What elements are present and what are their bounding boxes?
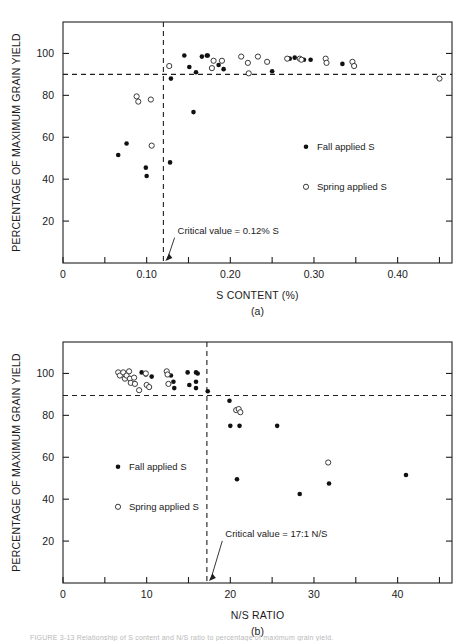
data-point-fall (308, 57, 313, 62)
legend-label-spring: Spring applied S (317, 181, 387, 192)
x-axis-tick-label: 20 (224, 588, 236, 600)
data-point-fall (169, 76, 174, 81)
data-point-spring (255, 54, 260, 59)
data-point-spring (167, 63, 172, 68)
data-point-fall (187, 383, 192, 388)
y-axis-tick-label: 40 (42, 173, 54, 185)
y-axis-tick-label: 60 (42, 451, 54, 463)
data-point-fall (149, 374, 154, 379)
chart-panel-a: 00.100.200.300.4020406080100Critical val… (0, 0, 475, 320)
y-axis-tick-label: 100 (36, 47, 54, 59)
annotation-arrowhead (165, 254, 172, 262)
data-point-fall (191, 110, 196, 115)
y-axis-tick-label: 100 (36, 367, 54, 379)
data-point-fall (235, 477, 240, 482)
data-point-fall (194, 380, 199, 385)
y-axis-tick-label: 60 (42, 131, 54, 143)
data-point-spring (219, 58, 224, 63)
data-point-fall (200, 54, 205, 59)
data-point-fall (270, 69, 275, 74)
y-axis-tick-label: 20 (42, 215, 54, 227)
data-point-fall (182, 53, 187, 58)
data-point-spring (324, 60, 329, 65)
data-point-spring (211, 58, 216, 63)
y-axis-title: PERCENTAGE OF MAXIMUM GRAIN YIELD (10, 33, 22, 252)
data-point-spring (285, 56, 290, 61)
data-point-fall (292, 55, 297, 60)
data-point-spring (136, 99, 141, 104)
data-point-spring (246, 71, 251, 76)
annotation-arrow (211, 541, 222, 579)
data-point-spring (147, 384, 152, 389)
data-point-fall (404, 473, 409, 478)
x-axis-tick-label: 0.30 (304, 268, 325, 280)
data-point-spring (352, 63, 357, 68)
data-point-spring (148, 97, 153, 102)
data-point-spring (299, 57, 304, 62)
data-point-fall (216, 63, 221, 68)
data-point-spring (132, 375, 137, 380)
critical-value-annotation: Critical value = 0.12% S (178, 225, 279, 236)
y-axis-tick-label: 40 (42, 493, 54, 505)
critical-value-annotation: Critical value = 17:1 N/S (225, 528, 327, 539)
annotation-arrowhead (209, 574, 216, 582)
data-point-spring (165, 372, 170, 377)
panel-label: (a) (251, 305, 264, 317)
legend-label-fall: Fall applied S (317, 141, 375, 152)
y-axis-tick-label: 80 (42, 409, 54, 421)
x-axis-tick-label: 30 (308, 588, 320, 600)
data-point-spring (126, 369, 131, 374)
legend-marker-fall (116, 465, 121, 470)
scatter-plot-b: 01020304020406080100Critical value = 17:… (0, 320, 475, 640)
chart-panel-b: 01020304020406080100Critical value = 17:… (0, 320, 475, 640)
scatter-plot-a: 00.100.200.300.4020406080100Critical val… (0, 0, 475, 320)
data-point-spring (149, 143, 154, 148)
data-point-fall (168, 160, 173, 165)
x-axis-tick-label: 0.40 (387, 268, 408, 280)
x-axis-tick-label: 40 (392, 588, 404, 600)
data-point-fall (227, 398, 232, 403)
y-axis-tick-label: 80 (42, 89, 54, 101)
data-point-fall (194, 386, 199, 391)
data-point-fall (144, 174, 149, 179)
data-point-spring (143, 371, 148, 376)
x-axis-tick-label: 0.20 (220, 268, 241, 280)
data-point-fall (187, 65, 192, 70)
data-point-spring (132, 381, 137, 386)
legend-marker-spring (303, 184, 308, 189)
data-point-fall (185, 370, 190, 375)
legend-marker-fall (304, 145, 309, 150)
data-point-fall (237, 424, 242, 429)
data-point-fall (116, 153, 121, 158)
data-point-spring (137, 388, 142, 393)
y-axis-tick-label: 20 (42, 535, 54, 547)
data-point-fall (297, 492, 302, 497)
x-axis-tick-label: 0.10 (136, 268, 157, 280)
x-axis-tick-label: 10 (141, 588, 153, 600)
data-point-spring (437, 76, 442, 81)
data-point-fall (124, 141, 129, 146)
legend-marker-spring (115, 504, 120, 509)
data-point-fall (172, 386, 177, 391)
data-point-spring (245, 60, 250, 65)
data-point-spring (239, 54, 244, 59)
y-axis-title: PERCENTAGE OF MAXIMUM GRAIN YIELD (10, 353, 22, 572)
data-point-fall (228, 424, 233, 429)
data-point-spring (209, 66, 214, 71)
data-point-fall (144, 165, 149, 170)
data-point-fall (327, 481, 332, 486)
data-point-fall (171, 380, 176, 385)
data-point-fall (195, 371, 200, 376)
data-point-fall (205, 53, 210, 58)
data-point-spring (238, 410, 243, 415)
x-axis-tick-label: 0 (60, 588, 66, 600)
data-point-spring (265, 59, 270, 64)
data-point-fall (275, 424, 280, 429)
legend-label-fall: Fall applied S (129, 461, 187, 472)
data-point-spring (166, 381, 171, 386)
figure-page: 00.100.200.300.4020406080100Critical val… (0, 0, 475, 641)
data-point-fall (194, 70, 199, 75)
x-axis-tick-label: 0 (60, 268, 66, 280)
data-point-spring (326, 460, 331, 465)
x-axis-title: S CONTENT (%) (216, 289, 298, 301)
